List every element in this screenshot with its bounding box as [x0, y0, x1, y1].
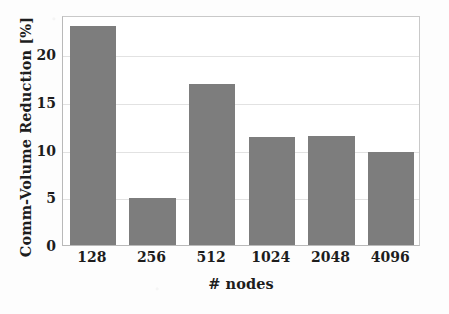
bar	[70, 26, 116, 246]
bar-chart-figure: Comm-Volume Reduction [%] 05101520 12825…	[0, 0, 449, 314]
y-axis-tick-label: 5	[24, 191, 56, 205]
bar	[129, 198, 175, 245]
x-axis-tick-label: 2048	[311, 249, 350, 265]
bar	[308, 136, 354, 245]
x-axis-tick-label: 4096	[371, 249, 410, 265]
x-axis-tick-label: 128	[77, 249, 106, 265]
plot-area	[62, 16, 420, 246]
x-axis-tick-label: 1024	[251, 249, 290, 265]
x-axis-tick-label: 512	[197, 249, 226, 265]
y-axis-tick-labels: 05101520	[24, 0, 56, 314]
y-axis-tick-label: 20	[24, 48, 56, 62]
x-axis-tick-labels: 128256512102420484096	[62, 249, 420, 271]
bar	[189, 84, 235, 245]
bar	[368, 152, 414, 246]
bar-series	[63, 17, 419, 245]
x-axis-tick-label: 256	[137, 249, 166, 265]
y-axis-tick-label: 0	[24, 239, 56, 253]
x-axis-title: # nodes	[62, 275, 420, 292]
y-axis-tick-label: 15	[24, 96, 56, 110]
y-axis-tick-label: 10	[24, 144, 56, 158]
bar	[249, 137, 295, 245]
